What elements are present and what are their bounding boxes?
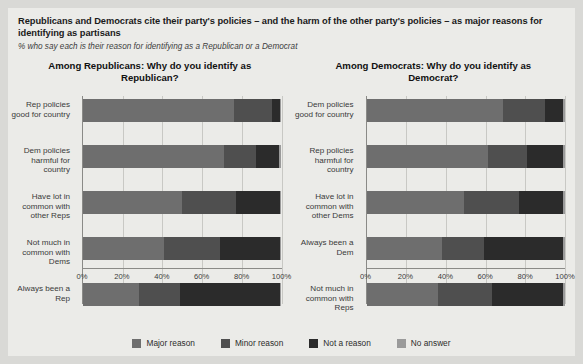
axis-tick-label: 40%	[154, 272, 169, 281]
chart-header: Republicans and Democrats cite their par…	[8, 8, 575, 52]
bar-segment-major-reason	[83, 237, 164, 260]
category-label: Dem policies good for country	[290, 100, 354, 119]
panel-democrats: Among Democrats: Why do you identify as …	[292, 60, 576, 304]
bar-segment-not-a-reason	[220, 237, 280, 260]
bar-segment-no-answer	[563, 99, 565, 122]
page-title: Republicans and Democrats cite their par…	[18, 16, 565, 39]
legend-swatch-icon	[132, 339, 141, 348]
bar-segment-minor-reason	[488, 145, 528, 168]
bar-row	[367, 191, 566, 214]
category-label: Not much in common with Reps	[290, 284, 354, 313]
bar-segment-minor-reason	[164, 237, 220, 260]
stacked-bar[interactable]	[83, 283, 282, 306]
legend-item-no-answer[interactable]: No answer	[397, 338, 451, 348]
bar-segment-no-answer	[280, 283, 282, 306]
category-label: Not much in common with Dems	[6, 238, 70, 267]
bar-segment-minor-reason	[464, 191, 520, 214]
bar-segment-not-a-reason	[527, 145, 563, 168]
bar-segment-no-answer	[279, 145, 281, 168]
bar-row	[367, 283, 566, 306]
chart-subtitle: % who say each is their reason for ident…	[18, 41, 565, 52]
category-label: Have lot in common with other Reps	[6, 192, 70, 221]
axis-tick-label: 80%	[517, 272, 532, 281]
chart-panels: Among Republicans: Why do you identify a…	[8, 60, 575, 304]
axis-tick-label: 60%	[194, 272, 209, 281]
legend-item-minor-reason[interactable]: Minor reason	[221, 338, 283, 348]
axis-tick-label: 100%	[555, 272, 574, 281]
axis-tick-label: 20%	[114, 272, 129, 281]
bar-segment-not-a-reason	[519, 191, 563, 214]
panel-title-republicans: Among Republicans: Why do you identify a…	[8, 60, 292, 86]
category-label: Rep policies good for country	[6, 100, 70, 119]
legend-label: Not a reason	[323, 338, 371, 348]
category-label: Have lot in common with other Dems	[290, 192, 354, 221]
bar-segment-not-a-reason	[484, 237, 563, 260]
bar-segment-no-answer	[280, 191, 282, 214]
value-axis-democrats: 0%20%40%60%80%100%	[366, 268, 566, 285]
chart-figure: Republicans and Democrats cite their par…	[8, 8, 575, 356]
stacked-bar[interactable]	[367, 283, 566, 306]
category-label: Dem policies harmful for country	[6, 146, 70, 175]
bar-segment-not-a-reason	[236, 191, 280, 214]
value-axis-republicans: 0%20%40%60%80%100%	[82, 268, 282, 285]
bar-segment-major-reason	[83, 283, 139, 306]
chart-legend: Major reasonMinor reasonNot a reasonNo a…	[8, 338, 575, 348]
panel-title-democrats: Among Democrats: Why do you identify as …	[292, 60, 576, 86]
legend-item-major-reason[interactable]: Major reason	[132, 338, 194, 348]
axis-tick-label: 0%	[77, 272, 88, 281]
stacked-bar[interactable]	[367, 237, 566, 260]
bar-row	[367, 145, 566, 168]
bar-segment-not-a-reason	[180, 283, 279, 306]
bar-segment-no-answer	[280, 99, 282, 122]
bar-row	[83, 237, 282, 260]
bar-segment-minor-reason	[224, 145, 256, 168]
bar-segment-no-answer	[563, 145, 565, 168]
bar-segment-no-answer	[563, 191, 565, 214]
legend-swatch-icon	[221, 339, 230, 348]
bar-row	[367, 99, 566, 122]
bar-segment-minor-reason	[442, 237, 484, 260]
category-label: Always been a Rep	[6, 284, 70, 303]
legend-label: Minor reason	[235, 338, 283, 348]
stacked-bar[interactable]	[83, 191, 282, 214]
stacked-bar[interactable]	[367, 145, 566, 168]
bar-segment-no-answer	[280, 237, 282, 260]
bar-row	[367, 237, 566, 260]
panel-republicans: Among Republicans: Why do you identify a…	[8, 60, 292, 304]
stacked-bar[interactable]	[83, 237, 282, 260]
axis-tick-label: 80%	[234, 272, 249, 281]
stacked-bar[interactable]	[83, 145, 282, 168]
legend-label: Major reason	[146, 338, 194, 348]
category-axis-republicans: Rep policies good for countryDem policie…	[8, 96, 76, 304]
bar-segment-not-a-reason	[545, 99, 563, 122]
bar-segment-major-reason	[367, 145, 488, 168]
legend-item-not-a-reason[interactable]: Not a reason	[309, 338, 371, 348]
legend-swatch-icon	[309, 339, 318, 348]
stacked-bar[interactable]	[367, 99, 566, 122]
axis-tick-label: 20%	[398, 272, 413, 281]
bar-row	[83, 99, 282, 122]
axis-tick-label: 0%	[360, 272, 371, 281]
bar-segment-minor-reason	[234, 99, 272, 122]
bar-segment-not-a-reason	[272, 99, 280, 122]
stacked-bar[interactable]	[83, 99, 282, 122]
bar-segment-major-reason	[367, 191, 464, 214]
stacked-bar[interactable]	[367, 191, 566, 214]
bar-row	[83, 191, 282, 214]
legend-label: No answer	[411, 338, 451, 348]
axis-tick-label: 100%	[272, 272, 291, 281]
category-label: Always been a Dem	[290, 238, 354, 257]
bar-segment-major-reason	[83, 99, 234, 122]
bar-segment-major-reason	[367, 283, 438, 306]
bar-segment-major-reason	[83, 145, 224, 168]
bar-row	[83, 145, 282, 168]
legend-swatch-icon	[397, 339, 406, 348]
bar-segment-no-answer	[563, 237, 565, 260]
bar-segment-major-reason	[367, 99, 504, 122]
bar-segment-no-answer	[563, 283, 565, 306]
bar-segment-major-reason	[367, 237, 442, 260]
axis-tick-label: 60%	[478, 272, 493, 281]
bar-segment-minor-reason	[139, 283, 181, 306]
bar-segment-minor-reason	[503, 99, 545, 122]
category-axis-democrats: Dem policies good for countryRep policie…	[292, 96, 360, 304]
